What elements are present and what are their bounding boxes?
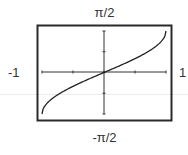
y-min-label: -π/2 xyxy=(0,131,188,144)
x-min-label: -1 xyxy=(8,66,20,79)
x-max-label: 1 xyxy=(179,66,186,79)
y-max-label: π/2 xyxy=(0,6,188,19)
